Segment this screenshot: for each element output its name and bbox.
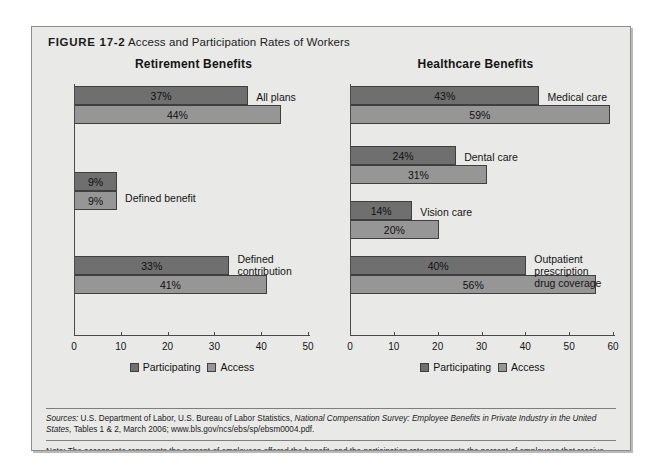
bar-access[interactable]: 20% xyxy=(351,220,439,239)
bar-access[interactable]: 31% xyxy=(351,165,487,184)
legend-item-access[interactable]: Access xyxy=(207,361,254,373)
explanatory-note: Note: The access rate represents the per… xyxy=(46,446,616,451)
bar-group: 43%59%Medical care xyxy=(351,86,615,124)
bar-row: 41% xyxy=(75,275,310,294)
x-axis-tick-label: 0 xyxy=(71,341,77,352)
bar-value-label: 44% xyxy=(75,106,280,123)
x-axis-tick-label: 40 xyxy=(520,341,531,352)
bar-access[interactable]: 9% xyxy=(75,191,117,210)
legend-swatch-access-icon xyxy=(207,363,216,372)
bar-value-label: 59% xyxy=(351,106,609,123)
legend-item-access[interactable]: Access xyxy=(498,361,545,373)
bar-participating[interactable]: 33% xyxy=(75,256,229,275)
bar-value-label: 40% xyxy=(351,257,525,274)
chart-panel-healthcare: Healthcare Benefits 43%59%Medical care24… xyxy=(320,57,625,377)
bar-row: 9% xyxy=(75,172,310,191)
x-axis-tick-label: 10 xyxy=(115,341,126,352)
x-axis-line xyxy=(350,335,615,336)
x-axis-tick-label: 50 xyxy=(564,341,575,352)
bar-group: 9%9%Defined benefit xyxy=(75,172,310,210)
bar-value-label: 31% xyxy=(351,166,486,183)
divider-above-sources xyxy=(46,408,616,409)
plot-area-retirement: 37%44%All plans9%9%Defined benefit33%41%… xyxy=(74,84,310,336)
bar-row: 43% xyxy=(351,86,615,105)
chart-title-retirement: Retirement Benefits xyxy=(42,57,327,71)
bar-value-label: 56% xyxy=(351,276,595,293)
x-axis-tick xyxy=(394,332,395,336)
bar-row: 44% xyxy=(75,105,310,124)
bar-participating[interactable]: 9% xyxy=(75,172,117,191)
bar-group: 24%31%Dental care xyxy=(351,146,615,184)
bar-row: 40% xyxy=(351,256,615,275)
bar-value-label: 43% xyxy=(351,87,538,104)
x-axis-tick xyxy=(214,332,215,336)
legend-item-participating[interactable]: Participating xyxy=(130,361,201,373)
bar-value-label: 9% xyxy=(75,192,116,209)
chart-panel-retirement: Retirement Benefits 37%44%All plans9%9%D… xyxy=(42,57,327,377)
legend-swatch-participating-icon xyxy=(420,363,429,372)
figure-number: FIGURE 17-2 xyxy=(48,36,125,48)
x-axis-tick-label: 60 xyxy=(607,341,618,352)
bar-row: 56% xyxy=(351,275,615,294)
x-axis-tick-label: 20 xyxy=(432,341,443,352)
figure-container: FIGURE 17-2 Access and Participation Rat… xyxy=(31,26,631,451)
bar-participating[interactable]: 43% xyxy=(351,86,539,105)
legend-item-participating[interactable]: Participating xyxy=(420,361,491,373)
legend-label: Access xyxy=(220,361,254,373)
bar-group: 40%56%Outpatient prescription drug cover… xyxy=(351,256,615,294)
bar-row: 33% xyxy=(75,256,310,275)
bar-row: 9% xyxy=(75,191,310,210)
x-axis-tick-label: 50 xyxy=(302,341,313,352)
chart-legend: ParticipatingAccess xyxy=(350,361,615,373)
legend-label: Participating xyxy=(433,361,491,373)
bar-group: 37%44%All plans xyxy=(75,86,310,124)
bar-participating[interactable]: 37% xyxy=(75,86,248,105)
bar-participating[interactable]: 24% xyxy=(351,146,456,165)
bar-row: 37% xyxy=(75,86,310,105)
legend-label: Access xyxy=(511,361,545,373)
x-axis-line xyxy=(74,335,310,336)
bar-row: 31% xyxy=(351,165,615,184)
x-axis-tick xyxy=(525,332,526,336)
bar-participating[interactable]: 40% xyxy=(351,256,526,275)
bar-value-label: 14% xyxy=(351,202,411,219)
x-axis-tick-label: 10 xyxy=(388,341,399,352)
bar-row: 24% xyxy=(351,146,615,165)
bar-access[interactable]: 56% xyxy=(351,275,596,294)
bar-value-label: 33% xyxy=(75,257,228,274)
x-axis-tick xyxy=(482,332,483,336)
legend-swatch-participating-icon xyxy=(130,363,139,372)
chart-legend: ParticipatingAccess xyxy=(74,361,310,373)
bar-access[interactable]: 41% xyxy=(75,275,267,294)
x-axis-tick-label: 30 xyxy=(476,341,487,352)
bar-row: 20% xyxy=(351,220,615,239)
x-axis-tick xyxy=(261,332,262,336)
bar-value-label: 37% xyxy=(75,87,247,104)
bar-access[interactable]: 59% xyxy=(351,105,610,124)
sources-text-1: U.S. Department of Labor, U.S. Bureau of… xyxy=(78,414,294,423)
sources-text-2: Tables 1 & 2, March 2006; www.bls.gov/nc… xyxy=(72,425,315,434)
legend-swatch-access-icon xyxy=(498,363,507,372)
bar-value-label: 24% xyxy=(351,147,455,164)
bar-row: 59% xyxy=(351,105,615,124)
x-axis-tick-label: 30 xyxy=(209,341,220,352)
bar-value-label: 20% xyxy=(351,221,438,238)
figure-title: FIGURE 17-2 Access and Participation Rat… xyxy=(48,36,350,48)
x-axis-tick xyxy=(168,332,169,336)
plot-area-healthcare: 43%59%Medical care24%31%Dental care14%20… xyxy=(350,84,615,336)
bar-participating[interactable]: 14% xyxy=(351,201,412,220)
x-axis-tick-label: 40 xyxy=(256,341,267,352)
bar-value-label: 41% xyxy=(75,276,266,293)
bar-value-label: 9% xyxy=(75,173,116,190)
x-axis-tick xyxy=(438,332,439,336)
x-axis-tick-label: 0 xyxy=(347,341,353,352)
x-axis-tick xyxy=(308,332,309,336)
bar-access[interactable]: 44% xyxy=(75,105,281,124)
bar-group: 33%41%Defined contribution xyxy=(75,256,310,294)
x-axis-tick xyxy=(569,332,570,336)
divider-above-note xyxy=(46,440,616,441)
bar-row: 14% xyxy=(351,201,615,220)
sources-prefix: Sources: xyxy=(46,414,78,423)
figure-caption: Access and Participation Rates of Worker… xyxy=(128,36,350,48)
sources-note: Sources: U.S. Department of Labor, U.S. … xyxy=(46,413,616,435)
